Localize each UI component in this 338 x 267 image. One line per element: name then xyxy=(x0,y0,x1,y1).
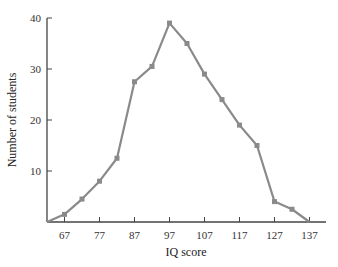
data-point-marker xyxy=(80,197,85,202)
data-point-marker xyxy=(167,21,172,26)
data-point-marker xyxy=(202,72,207,77)
data-point-marker xyxy=(237,123,242,128)
x-tick-label: 67 xyxy=(59,229,71,241)
y-tick-label: 40 xyxy=(30,12,42,24)
y-tick-label: 20 xyxy=(30,114,42,126)
data-point-marker xyxy=(132,79,137,84)
x-tick-label: 87 xyxy=(129,229,141,241)
data-point-marker xyxy=(255,143,260,148)
data-line xyxy=(47,23,310,222)
data-point-marker xyxy=(150,64,155,69)
x-axis-label: IQ score xyxy=(166,245,207,259)
data-point-marker xyxy=(115,156,120,161)
data-point-marker xyxy=(185,41,190,46)
y-axis-label: Number of students xyxy=(5,72,19,167)
x-tick-label: 97 xyxy=(164,229,176,241)
data-point-marker xyxy=(220,97,225,102)
data-point-marker xyxy=(62,212,67,217)
data-point-marker xyxy=(290,207,295,212)
y-tick-label: 30 xyxy=(30,63,42,75)
data-series xyxy=(47,21,310,222)
data-point-marker xyxy=(272,199,277,204)
x-tick-label: 127 xyxy=(266,229,283,241)
y-tick-label: 10 xyxy=(30,165,42,177)
x-tick-label: 77 xyxy=(94,229,106,241)
x-tick-label: 137 xyxy=(301,229,318,241)
frequency-polygon-chart: 1020304067778797107117127137 IQ score Nu… xyxy=(0,0,338,267)
x-tick-label: 117 xyxy=(231,229,248,241)
x-tick-label: 107 xyxy=(196,229,213,241)
data-point-marker xyxy=(97,179,102,184)
